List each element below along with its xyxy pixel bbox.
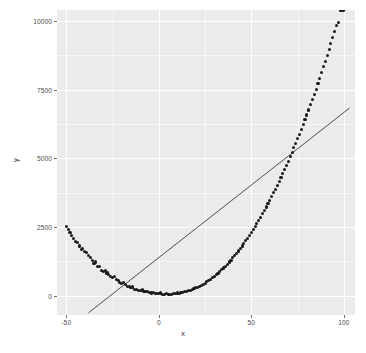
data-point [279,176,282,179]
data-point [335,24,338,27]
x-tick-label: 50 [248,319,256,326]
data-point [246,237,249,240]
data-point [291,151,294,154]
x-axis-title: x [0,329,366,338]
y-tick-label: 5000 [37,155,52,162]
y-tick-label: 10000 [33,17,52,24]
x-tick-label: -50 [61,319,71,326]
data-point [298,133,301,136]
data-point [254,225,257,228]
data-point [324,60,327,63]
y-tick-label: 2500 [37,224,52,231]
data-point [276,184,279,187]
x-tick-mark [159,315,160,318]
x-tick-label: 0 [157,319,161,326]
data-point [259,216,262,219]
data-point [266,202,269,205]
y-tick-mark [54,158,57,159]
data-point [326,54,329,57]
y-tick-mark [54,21,57,22]
data-point [250,231,253,234]
data-point [274,188,277,191]
data-point [263,209,266,212]
data-point [316,82,319,85]
x-tick-mark [251,315,252,318]
data-point [278,180,281,183]
data-point [300,128,303,131]
data-point [76,241,79,244]
data-point [265,205,268,208]
y-tick-label: 0 [48,292,52,299]
data-point [98,265,101,268]
y-tick-mark [54,90,57,91]
data-point [285,164,288,167]
data-point [315,88,318,91]
data-point [328,48,331,51]
scatter-plot-figure: -50050100 025005000750010000 x y [0,0,366,353]
data-point [248,234,251,237]
x-tick-mark [66,315,67,318]
fit-line-segment [88,108,349,313]
y-tick-mark [54,296,57,297]
data-point [313,93,316,96]
y-axis-title: y [11,158,20,162]
plot-panel [57,10,355,315]
x-tick-mark [344,315,345,318]
data-point [241,244,244,247]
data-point [337,21,340,24]
x-tick-label: 100 [338,319,349,326]
data-marks-layer [57,10,355,315]
data-point [252,228,255,231]
y-tick-mark [54,227,57,228]
y-tick-label: 7500 [37,86,52,93]
data-point [307,108,310,111]
data-point [287,160,290,163]
